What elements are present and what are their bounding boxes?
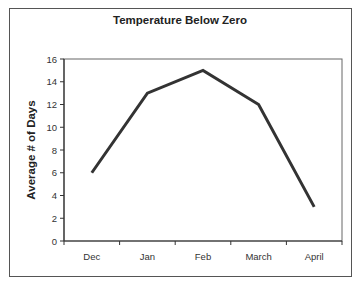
x-tick-label: Feb: [195, 251, 211, 262]
y-tick-label: 14: [46, 76, 57, 87]
data-series: [92, 70, 314, 207]
y-tick-label: 6: [52, 167, 57, 178]
y-tick-label: 4: [52, 190, 57, 201]
y-tick-label: 16: [46, 54, 57, 65]
x-tick-label: Jan: [140, 251, 155, 262]
plot-area: [64, 59, 342, 241]
x-tick-label: March: [245, 251, 271, 262]
y-tick-label: 10: [46, 122, 57, 133]
y-axis: 0246810121416: [46, 54, 64, 247]
y-tick-label: 0: [52, 236, 57, 247]
x-tick-label: April: [305, 251, 324, 262]
x-axis: DecJanFebMarchApril: [64, 241, 342, 262]
y-tick-label: 2: [52, 213, 57, 224]
y-tick-label: 12: [46, 99, 57, 110]
x-tick-label: Dec: [83, 251, 100, 262]
line-chart: 0246810121416 DecJanFebMarchApril: [0, 0, 360, 289]
y-tick-label: 8: [52, 145, 57, 156]
series-line: [92, 70, 314, 207]
